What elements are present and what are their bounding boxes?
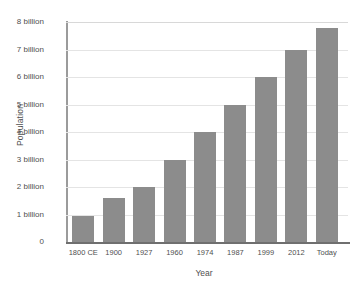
- x-axis-tick-label: Today: [300, 248, 354, 257]
- y-axis-tick-label: 3 billion: [0, 155, 44, 164]
- bar: [103, 198, 125, 242]
- x-axis-spine: [66, 242, 350, 244]
- y-axis-tick-label: 1 billion: [0, 210, 44, 219]
- bar: [316, 28, 338, 243]
- bars-layer: [68, 22, 342, 242]
- y-axis-tick-label: 6 billion: [0, 72, 44, 81]
- bar: [255, 77, 277, 242]
- y-axis-tick-label: 7 billion: [0, 45, 44, 54]
- x-axis-tick-labels: 1800 CE1900192719601974198719992012Today: [68, 248, 342, 262]
- y-axis-tick-label: 0: [0, 237, 44, 246]
- bar: [164, 160, 186, 243]
- bar: [133, 187, 155, 242]
- y-axis-tick-label: 5 billion: [0, 100, 44, 109]
- bar: [72, 216, 94, 242]
- y-axis-title-label: Population: [15, 104, 25, 146]
- bar: [285, 50, 307, 243]
- y-axis-tick-label: 2 billion: [0, 182, 44, 191]
- x-axis-title: Year: [66, 268, 342, 278]
- bar: [224, 105, 246, 243]
- y-axis-tick-label: 4 billion: [0, 127, 44, 136]
- population-bar-chart: Population 01 billion2 billion3 billion4…: [0, 0, 360, 294]
- y-axis-tick-label: 8 billion: [0, 17, 44, 26]
- bar: [194, 132, 216, 242]
